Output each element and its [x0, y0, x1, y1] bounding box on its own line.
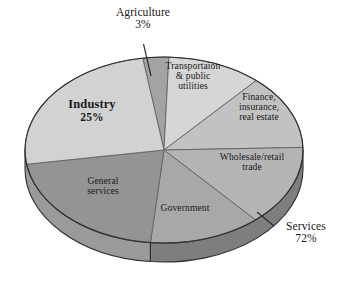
label-agriculture-pct: 3% [86, 18, 200, 30]
label-agriculture-name: Agriculture [86, 6, 200, 18]
label-government: Government [143, 203, 227, 213]
label-agriculture: Agriculture 3% [86, 6, 200, 30]
label-services-pct: 72% [271, 232, 341, 244]
label-finance-line3: real estate [219, 112, 299, 122]
label-industry-name: Industry [48, 98, 136, 111]
label-services-name: Services [271, 220, 341, 232]
label-services: Services 72% [271, 220, 341, 244]
label-industry: Industry 25% [48, 98, 136, 123]
label-government-line1: Government [143, 203, 227, 213]
label-general-line2: services [66, 186, 140, 196]
label-finance: Finance, insurance, real estate [219, 92, 299, 122]
pie-chart: Agriculture 3% Industry 25% Services 72%… [0, 0, 343, 285]
label-general-services: General services [66, 176, 140, 196]
label-industry-pct: 25% [48, 111, 136, 123]
label-transportation-line3: utilities [151, 81, 235, 91]
label-transportation: Transportaion & public utilities [151, 61, 235, 91]
label-wholesale-line2: trade [206, 162, 298, 172]
label-wholesale-retail-trade: Wholesale/retail trade [206, 152, 298, 172]
